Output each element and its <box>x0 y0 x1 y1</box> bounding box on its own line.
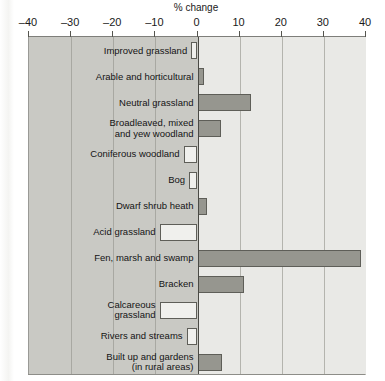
bar-category-label: Calcareous grassland <box>0 300 156 321</box>
x-tick-label: –30 <box>61 16 79 28</box>
x-tick-label: 30 <box>317 16 329 28</box>
bar <box>160 224 198 241</box>
zero-reference-line <box>198 37 199 374</box>
bar-category-label: Coniferous woodland <box>10 149 180 160</box>
x-tick-label: 10 <box>233 16 245 28</box>
x-tick-label: 0 <box>193 16 199 28</box>
bar <box>187 328 198 345</box>
bar-category-label: Rivers and streams <box>13 331 183 342</box>
bar-category-label: Acid grassland <box>0 227 156 238</box>
bar <box>198 354 222 371</box>
bar-category-label: Built up and gardens (in rural areas) <box>24 352 194 373</box>
x-tick-label: –20 <box>103 16 121 28</box>
plot-bottom-axis-line <box>28 374 366 375</box>
axis-title: % change <box>174 2 218 13</box>
bar-category-label: Neutral grassland <box>24 98 194 109</box>
bar <box>198 250 361 267</box>
x-tick-label: –10 <box>145 16 163 28</box>
bar <box>189 172 197 189</box>
bar-category-label: Fen, marsh and swamp <box>24 253 194 264</box>
figure-left-edge-gradient <box>0 0 14 381</box>
bar <box>198 120 221 137</box>
bar-category-label: Bracken <box>24 279 194 290</box>
bar <box>198 198 207 215</box>
bar-category-label: Broadleaved, mixed and yew woodland <box>24 118 194 139</box>
bar-category-label: Arable and horticultural <box>24 72 194 83</box>
bar-category-label: Dwarf shrub heath <box>24 201 194 212</box>
x-tick-label: –40 <box>19 16 37 28</box>
bar-category-label: Improved grassland <box>17 46 187 57</box>
bar <box>198 94 252 111</box>
chart-figure: % change –40–30–20–10010203040 Improved … <box>0 0 385 381</box>
x-tick-label: 40 <box>359 16 371 28</box>
bar <box>198 276 244 293</box>
plot-area: Improved grasslandArable and horticultur… <box>28 37 366 374</box>
bar-category-label: Bog <box>15 175 185 186</box>
x-axis-tick-labels: –40–30–20–10010203040 <box>0 16 385 30</box>
x-tick-label: 20 <box>275 16 287 28</box>
bar <box>160 302 198 319</box>
bar <box>184 146 198 163</box>
